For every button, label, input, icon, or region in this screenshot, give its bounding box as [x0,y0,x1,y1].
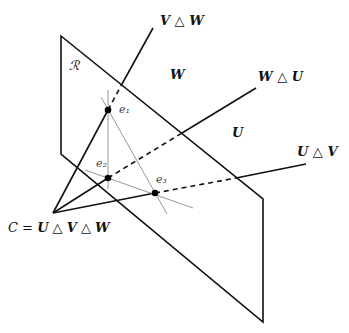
apex-eq: = [18,220,37,235]
point-e2 [105,175,112,182]
apex-label: C = U △ V △ W [8,221,110,234]
ray-u-v-hidden [155,178,236,193]
ray-u-v-back [236,164,306,178]
point-e3 [152,190,159,197]
region-label-u: U [232,126,243,139]
apex-v: V [67,220,77,235]
point-label-e2: e₂ [96,158,107,169]
point-label-e1: e₁ [119,104,130,115]
plane-label: ℛ [69,59,79,72]
point-e1 [105,107,112,114]
apex-c: C [8,220,18,235]
ray-label-u-v: U △ V [297,145,337,158]
ray-v-w-back [122,28,153,84]
ray-w-u-back [182,88,256,133]
apex-op1: △ [48,220,66,235]
apex-op2: △ [77,220,95,235]
ray-w-u-hidden [108,133,182,178]
ray-label-w-u: W △ U [258,70,303,83]
point-label-e3: e₃ [156,174,167,185]
ray-label-v-w: V △ W [160,14,204,27]
region-label-w: W [170,68,185,81]
apex-u: U [37,220,48,235]
apex-w: W [95,220,110,235]
diagram-canvas [0,0,349,333]
